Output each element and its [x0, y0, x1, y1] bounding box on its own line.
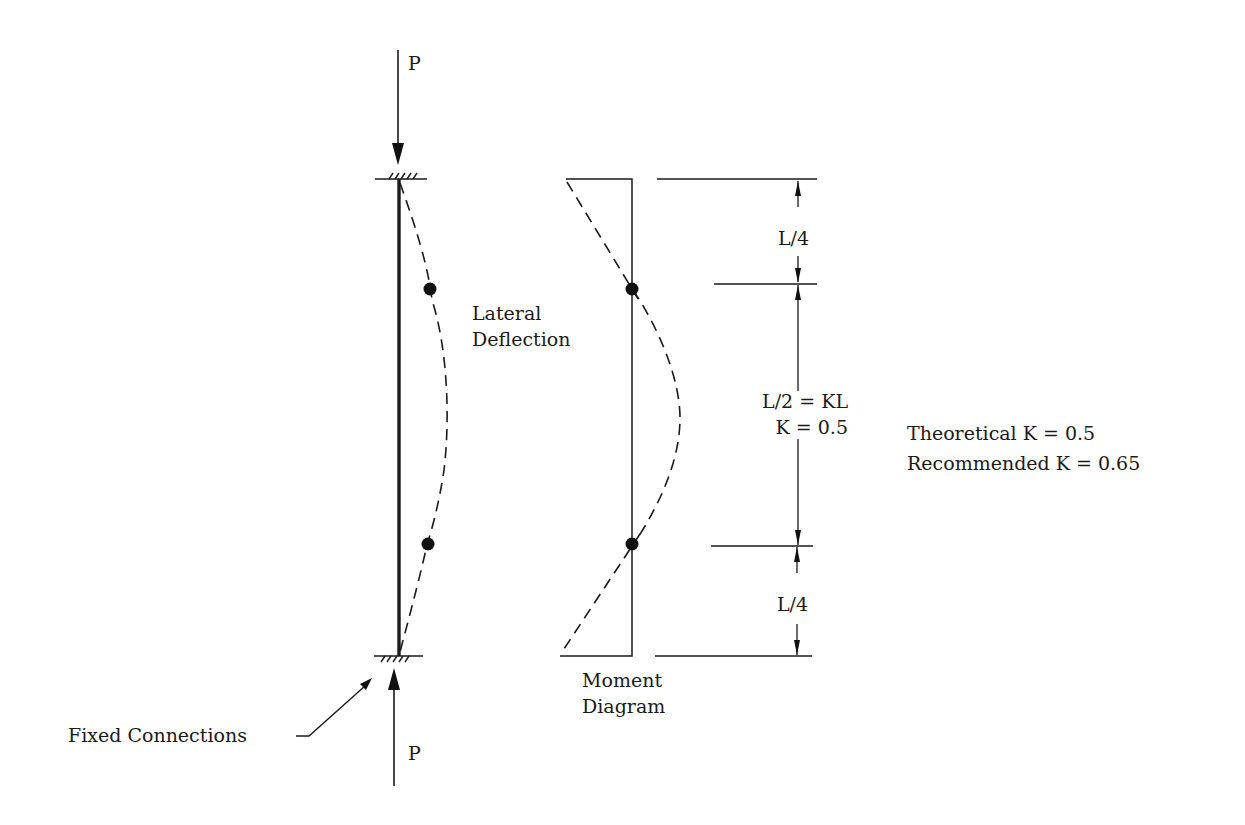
fixed-connections-leader [296, 678, 372, 736]
moment-zero-point-bottom [626, 538, 639, 551]
dimension-middle-half [795, 285, 801, 545]
dimension-top-label: L/4 [778, 227, 809, 249]
moment-zero-point-top [626, 283, 639, 296]
column-buckling-diagram: P Lateral Deflection P Fixed Connections [0, 0, 1245, 825]
theoretical-k-label: Theoretical K = 0.5 [907, 422, 1095, 444]
bottom-fixed-support-icon [374, 656, 423, 662]
moment-diagram-label-1: Moment [582, 669, 662, 691]
fixed-connections-label: Fixed Connections [68, 724, 247, 746]
lateral-deflection-label-2: Deflection [472, 328, 570, 350]
moment-diagram [560, 179, 680, 656]
top-load-arrow [392, 50, 404, 165]
inflection-point-top [424, 283, 437, 296]
dimension-middle-label-2: K = 0.5 [776, 416, 848, 438]
top-load-label: P [408, 52, 421, 74]
inflection-point-bottom [422, 538, 435, 551]
lateral-deflection-label-1: Lateral [472, 302, 541, 324]
lateral-deflection-curve [400, 183, 447, 652]
top-fixed-support-icon [375, 173, 427, 179]
moment-diagram-label-2: Diagram [582, 695, 665, 717]
dimension-middle-label-1: L/2 = KL [762, 390, 848, 412]
recommended-k-label: Recommended K = 0.65 [907, 452, 1140, 474]
dimension-bottom-label: L/4 [777, 593, 808, 615]
bottom-load-arrow [388, 668, 400, 786]
bottom-load-label: P [408, 742, 421, 764]
